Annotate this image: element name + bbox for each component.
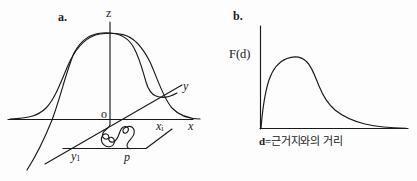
panel-b-x-axis-label-korean: 근거지와의 거리 xyxy=(271,135,343,148)
panel-a: a. z x y o xi y1 p xyxy=(0,0,210,181)
panel-b-label: b. xyxy=(233,10,243,22)
x-sub-i-label: xi xyxy=(156,120,164,132)
y-sub-1-subscript: 1 xyxy=(76,154,80,163)
x-axis-label: x xyxy=(188,120,193,132)
panel-b: b. F(d) d=근거지와의 거리 xyxy=(207,0,417,181)
panel-a-label: a. xyxy=(58,11,67,23)
z-axis-label: z xyxy=(106,7,111,19)
path-p-label: p xyxy=(124,151,130,163)
panel-b-drawing xyxy=(207,0,417,181)
distance-decay-curve xyxy=(261,57,406,128)
y-sub-1-label: y1 xyxy=(71,150,80,162)
panel-b-x-axis-label: d=근거지와의 거리 xyxy=(259,136,343,147)
y-axis-label: y xyxy=(183,80,188,92)
origin-label: o xyxy=(101,108,107,120)
panel-a-drawing xyxy=(0,0,210,181)
panel-b-y-axis-label: F(d) xyxy=(229,48,251,61)
x-sub-i-subscript: i xyxy=(161,124,163,133)
figure-root: a. z x y o xi y1 p b. F(d) d=근거지와의 거리 xyxy=(0,0,417,181)
